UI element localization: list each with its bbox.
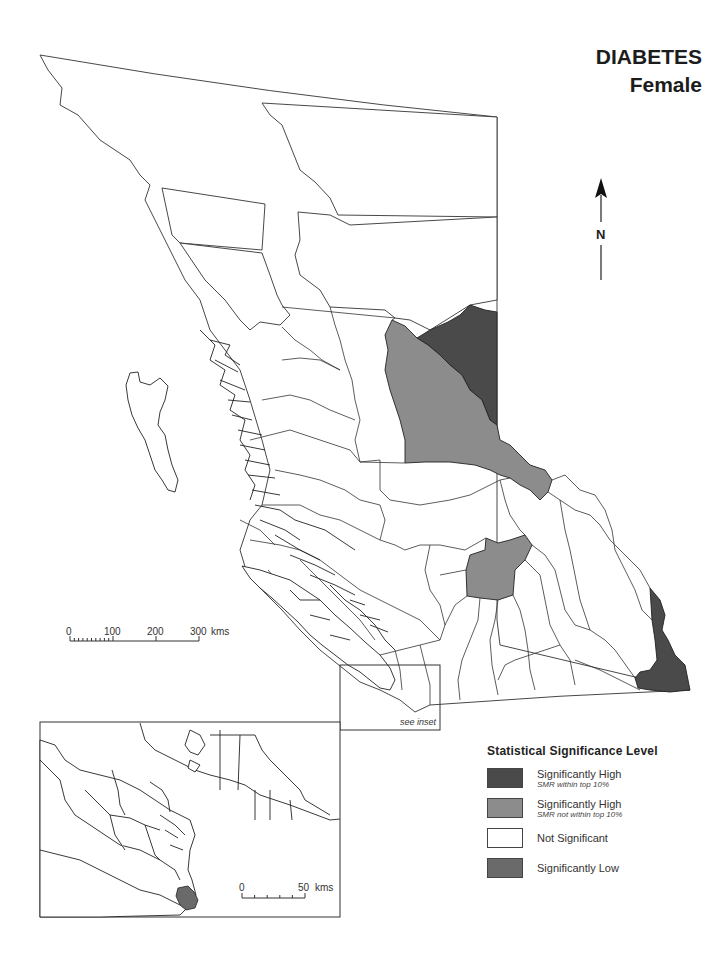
legend-swatch-medium [487, 798, 523, 818]
legend-title: Statistical Significance Level [487, 744, 712, 758]
haida-gwaii [126, 372, 178, 492]
inset-scale-tick-50: 50 [298, 882, 309, 893]
legend-swatch-white [487, 828, 523, 848]
legend-swatch-dark [487, 768, 523, 788]
see-inset-note: see inset [400, 717, 436, 727]
legend-swatch-low [487, 858, 523, 878]
main-scale-tick-100: 100 [104, 626, 121, 637]
legend-item-not-significant: Not Significant [487, 828, 712, 858]
region-sig-high-top10-kootenay [635, 588, 690, 692]
inset-map [40, 722, 340, 917]
legend-sublabel: SMR not within top 10% [537, 810, 622, 820]
legend-item-sig-high-top10: Significantly High SMR within top 10% [487, 768, 712, 798]
main-scale-tick-300: 300 [190, 626, 207, 637]
inset-scale-unit: kms [315, 882, 333, 893]
legend-label: Significantly High [537, 768, 621, 780]
legend-item-sig-low: Significantly Low [487, 858, 712, 888]
main-scale-tick-200: 200 [147, 626, 164, 637]
north-label: N [596, 227, 605, 242]
legend-item-sig-high-not-top10: Significantly High SMR not within top 10… [487, 798, 712, 828]
main-scale-bar [70, 636, 199, 641]
main-scale-tick-0: 0 [66, 626, 72, 637]
legend-label: Significantly High [537, 798, 622, 810]
main-scale-unit: kms [211, 626, 229, 637]
inset-scale-tick-0: 0 [239, 882, 245, 893]
legend-label: Significantly Low [537, 862, 619, 874]
legend-sublabel: SMR within top 10% [537, 780, 621, 790]
legend: Statistical Significance Level Significa… [487, 744, 712, 888]
legend-label: Not Significant [537, 832, 608, 844]
